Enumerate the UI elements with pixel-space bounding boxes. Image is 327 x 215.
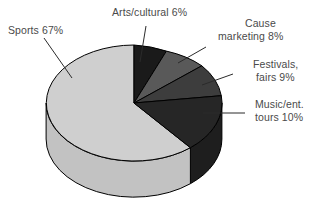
label-arts-cultural: Arts/cultural 6%	[112, 6, 187, 18]
label-music-ent-tours-line1: Music/ent.	[255, 98, 304, 110]
pie-chart-canvas: Sports 67% Arts/cultural 6% Cause market…	[0, 0, 327, 215]
label-cause-marketing-line2: marketing 8%	[218, 30, 283, 42]
label-music-ent-tours-line2: tours 10%	[255, 111, 303, 123]
pie-top-face	[46, 45, 222, 161]
label-festivals-fairs-line1: Festivals,	[253, 58, 298, 70]
label-cause-marketing-line1: Cause	[245, 17, 276, 29]
label-festivals-fairs-line2: fairs 9%	[256, 71, 295, 83]
pie-chart-figure: Sports 67% Arts/cultural 6% Cause market…	[0, 0, 327, 215]
leader-line-sports	[44, 38, 72, 78]
label-sports: Sports 67%	[8, 24, 63, 36]
